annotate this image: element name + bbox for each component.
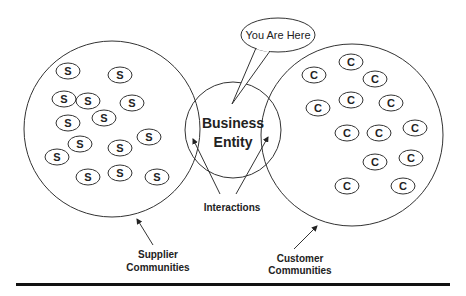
supplier-members: SSSSSSSSSSSSSS (45, 63, 169, 185)
customer-member-node: C (367, 125, 391, 141)
supplier-label-arrow (137, 219, 153, 245)
supplier-member-node: S (56, 63, 80, 79)
customer-member-letter: C (387, 97, 395, 109)
supplier-member-letter: S (64, 117, 71, 129)
supplier-member-node: S (92, 110, 116, 126)
bottom-rule-divider (16, 283, 450, 286)
customer-member-letter: C (371, 73, 379, 85)
customer-member-letter: C (347, 56, 355, 68)
customer-label-line2: Communities (268, 265, 332, 276)
customer-member-letter: C (343, 127, 351, 139)
supplier-member-node: S (76, 93, 100, 109)
customer-member-letter: C (407, 152, 415, 164)
customer-member-node: C (363, 154, 387, 170)
supplier-member-node: S (56, 115, 80, 131)
supplier-member-node: S (108, 165, 132, 181)
customer-member-letter: C (371, 156, 379, 168)
customer-member-node: C (379, 95, 403, 111)
supplier-label-line1: Supplier (138, 249, 178, 260)
supplier-member-letter: S (100, 112, 107, 124)
supplier-member-node: S (108, 67, 132, 83)
customer-label-line1: Customer (277, 253, 324, 264)
supplier-member-letter: S (84, 95, 91, 107)
supplier-label-line2: Communities (126, 262, 190, 273)
customer-member-letter: C (310, 69, 318, 81)
supplier-member-letter: S (145, 131, 152, 143)
supplier-member-node: S (137, 129, 161, 145)
supplier-member-letter: S (84, 171, 91, 183)
customer-member-node: C (306, 100, 330, 116)
business-entity-title-line2: Entity (214, 134, 253, 150)
supplier-member-letter: S (60, 93, 67, 105)
supplier-member-node: S (108, 140, 132, 156)
customer-member-node: C (399, 150, 423, 166)
supplier-member-node: S (68, 136, 92, 152)
supplier-member-node: S (145, 169, 169, 185)
customer-member-letter: C (411, 122, 419, 134)
supplier-member-letter: S (53, 151, 60, 163)
callout-text: You Are Here (245, 29, 310, 41)
customer-member-node: C (339, 54, 363, 70)
customer-member-node: C (403, 120, 427, 136)
supplier-member-node: S (76, 169, 100, 185)
customer-member-node: C (302, 67, 326, 83)
supplier-communities-circle (24, 41, 200, 217)
customer-member-letter: C (375, 127, 383, 139)
you-are-here-callout: You Are Here (232, 18, 315, 104)
diagram-canvas: SSSSSSSSSSSSSS CCCCCCCCCCCCC Business En… (0, 0, 466, 296)
customer-member-letter: C (343, 180, 351, 192)
customer-members: CCCCCCCCCCCCC (302, 54, 427, 194)
customer-member-node: C (339, 92, 363, 108)
customer-member-letter: C (347, 94, 355, 106)
customer-member-letter: C (314, 102, 322, 114)
supplier-member-letter: S (64, 65, 71, 77)
supplier-member-node: S (120, 95, 144, 111)
customer-label-arrow (294, 226, 317, 249)
supplier-member-letter: S (76, 138, 83, 150)
supplier-member-letter: S (116, 69, 123, 81)
interactions-label: Interactions (204, 202, 261, 213)
supplier-member-node: S (45, 149, 69, 165)
supplier-member-letter: S (153, 171, 160, 183)
customer-member-node: C (363, 71, 387, 87)
supplier-member-letter: S (128, 97, 135, 109)
customer-member-node: C (391, 178, 415, 194)
supplier-member-letter: S (116, 142, 123, 154)
business-entity-title-line1: Business (202, 115, 264, 131)
customer-member-node: C (335, 178, 359, 194)
customer-member-letter: C (399, 180, 407, 192)
supplier-member-node: S (52, 91, 76, 107)
customer-member-node: C (335, 125, 359, 141)
supplier-member-letter: S (116, 167, 123, 179)
